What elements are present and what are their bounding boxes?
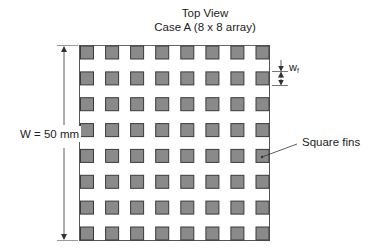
square-fin [231,201,244,214]
square-fin [181,46,194,59]
square-fin [106,175,119,188]
square-fin [256,175,269,188]
square-fin [231,72,244,85]
square-fin [206,227,219,240]
square-fin [256,227,269,240]
square-fin [81,227,94,240]
square-fin [106,46,119,59]
square-fin [206,175,219,188]
square-fin [206,72,219,85]
square-fin [131,46,144,59]
square-fin [156,124,169,137]
square-fin [156,201,169,214]
square-fins-label: Square fins [302,136,360,148]
square-fin [256,72,269,85]
square-fin [206,149,219,162]
square-fin [106,201,119,214]
square-fin [206,46,219,59]
square-fin [81,201,94,214]
square-fin [206,98,219,111]
square-fin [156,98,169,111]
square-fin [256,201,269,214]
square-fin [156,175,169,188]
square-fin [156,149,169,162]
square-fin [231,46,244,59]
square-fin [231,98,244,111]
square-fin [156,46,169,59]
fins-leader-dot-icon [261,156,263,158]
square-fin [131,175,144,188]
square-fin [131,227,144,240]
square-fin [256,124,269,137]
fin-grid [81,46,270,240]
square-fin [231,149,244,162]
square-fin [206,201,219,214]
square-fin [181,175,194,188]
square-fin [106,98,119,111]
width-label: W = 50 mm [18,126,81,142]
square-fin [156,72,169,85]
square-fin [181,201,194,214]
square-fin [81,124,94,137]
square-fin [231,124,244,137]
square-fin [106,227,119,240]
fin-width-label: wf [289,61,299,74]
square-fin [256,98,269,111]
square-fin [131,72,144,85]
square-fin [131,98,144,111]
square-fin [156,227,169,240]
square-fin [106,149,119,162]
square-fin [231,175,244,188]
fin-width-dimension [272,60,288,86]
square-fin [181,98,194,111]
fin-width-subscript: f [297,67,299,74]
fin-width-symbol: w [289,61,297,73]
square-fin [231,227,244,240]
square-fin [81,46,94,59]
square-fin [256,149,269,162]
width-dimension [57,46,78,241]
square-fin [181,124,194,137]
square-fin [106,72,119,85]
square-fin [131,124,144,137]
square-fin [131,149,144,162]
square-fin [181,72,194,85]
square-fin [206,124,219,137]
square-fin [81,72,94,85]
square-fin [106,124,119,137]
square-fin [181,149,194,162]
square-fin [181,227,194,240]
square-fin [131,201,144,214]
square-fin [81,175,94,188]
square-fin [81,98,94,111]
square-fin [256,46,269,59]
square-fin [81,149,94,162]
